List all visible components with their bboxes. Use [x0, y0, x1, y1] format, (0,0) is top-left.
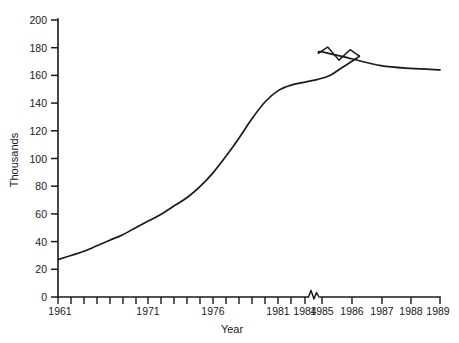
chart-svg: 200 180 160 140 120 100 80 60 40 20 0 — [0, 0, 459, 343]
y-tick-label: 120 — [29, 125, 47, 137]
y-tick-label: 60 — [35, 208, 47, 220]
data-line-right — [318, 52, 440, 70]
data-line-break-icon — [319, 47, 360, 60]
x-tick-label: 1989 — [426, 305, 450, 317]
x-axis-ticks — [58, 297, 440, 304]
x-tick-label: 1971 — [136, 305, 160, 317]
x-axis-break-icon — [309, 291, 320, 303]
y-tick-label: 140 — [29, 97, 47, 109]
y-tick-label: 160 — [29, 69, 47, 81]
x-tick-label: 1976 — [201, 305, 225, 317]
data-line-left — [58, 56, 359, 259]
x-axis-tick-labels: 1961 1971 1976 1981 1984 1985 1986 1987 … — [48, 305, 450, 317]
y-tick-label: 200 — [29, 14, 47, 26]
y-tick-label: 100 — [29, 153, 47, 165]
x-tick-label: 1985 — [310, 305, 334, 317]
x-tick-label: 1981 — [266, 305, 290, 317]
x-axis-title: Year — [221, 323, 244, 335]
x-tick-label: 1987 — [370, 305, 394, 317]
y-tick-label: 80 — [35, 180, 47, 192]
x-tick-label: 1961 — [48, 305, 72, 317]
x-tick-label: 1986 — [340, 305, 364, 317]
y-tick-label: 40 — [35, 236, 47, 248]
y-axis-tick-labels: 200 180 160 140 120 100 80 60 40 20 0 — [29, 14, 47, 303]
y-tick-label: 20 — [35, 263, 47, 275]
y-tick-label: 180 — [29, 42, 47, 54]
x-tick-label: 1988 — [399, 305, 423, 317]
line-chart: 200 180 160 140 120 100 80 60 40 20 0 — [0, 0, 459, 343]
y-axis-title: Thousands — [8, 132, 20, 187]
y-tick-label: 0 — [41, 291, 47, 303]
y-axis-ticks — [51, 20, 58, 297]
